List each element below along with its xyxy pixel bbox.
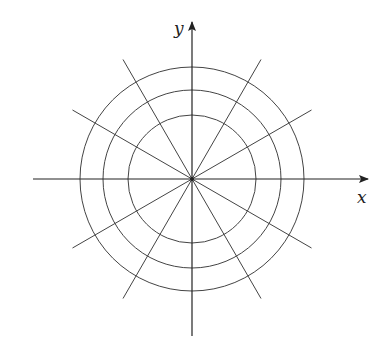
grid-ray (72, 110, 192, 179)
x-axis-label: x (357, 187, 367, 207)
origin-dot (190, 177, 194, 181)
grid-ray (192, 179, 312, 248)
grid-ray (192, 179, 261, 299)
grid-ray (192, 59, 261, 179)
grid-ray (72, 179, 192, 248)
grid-ray (192, 110, 312, 179)
y-axis-label: y (173, 18, 184, 38)
grid-ray (123, 179, 192, 299)
polar-grid-diagram: x y (0, 0, 381, 351)
grid-ray (123, 59, 192, 179)
